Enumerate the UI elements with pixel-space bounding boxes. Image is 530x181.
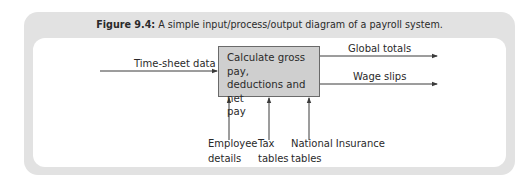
control-label-employee-line1: Employee	[208, 136, 258, 151]
control-label-employee-line2: details	[208, 151, 258, 166]
control-label-ni-line1: National Insurance	[291, 136, 385, 151]
output-label-global-totals: Global totals	[348, 41, 411, 56]
control-label-ni-line2: tables	[291, 151, 385, 166]
process-label-line2: deductions and net	[227, 78, 313, 105]
control-label-ni-tables: National Insurance tables	[291, 136, 385, 166]
process-label-line1: Calculate gross pay,	[227, 51, 313, 78]
output-label-wage-slips: Wage slips	[353, 69, 406, 84]
control-label-tax-line1: Tax	[258, 136, 289, 151]
control-label-employee-details: Employee details	[208, 136, 258, 166]
input-label-time-sheet: Time-sheet data	[134, 56, 216, 71]
control-label-tax-line2: tables	[258, 151, 289, 166]
control-label-tax-tables: Tax tables	[258, 136, 289, 166]
process-box: Calculate gross pay, deductions and net …	[218, 46, 320, 97]
process-label-line3: pay	[227, 105, 313, 119]
